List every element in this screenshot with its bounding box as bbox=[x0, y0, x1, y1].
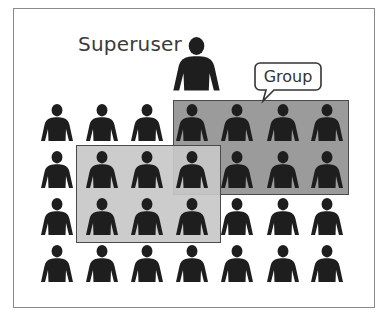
person-icon bbox=[176, 245, 208, 283]
person-icon bbox=[267, 245, 299, 283]
group-callout: Group bbox=[254, 62, 322, 91]
person-icon bbox=[86, 151, 118, 189]
person-icon bbox=[41, 104, 73, 142]
person-icon bbox=[41, 245, 73, 283]
person-icon bbox=[311, 198, 343, 236]
person-icon bbox=[311, 245, 343, 283]
person-icon bbox=[221, 245, 253, 283]
person-icon bbox=[131, 198, 163, 236]
person-icon bbox=[86, 245, 118, 283]
group-label: Group bbox=[254, 62, 322, 91]
person-icon bbox=[41, 198, 73, 236]
person-icon bbox=[267, 104, 299, 142]
person-icon bbox=[221, 151, 253, 189]
person-icon bbox=[311, 151, 343, 189]
person-icon bbox=[131, 245, 163, 283]
person-icon bbox=[176, 151, 208, 189]
person-icon bbox=[86, 198, 118, 236]
person-icon bbox=[131, 104, 163, 142]
person-icon bbox=[131, 151, 163, 189]
person-icon bbox=[41, 151, 73, 189]
person-icon bbox=[311, 104, 343, 142]
person-icon bbox=[176, 198, 208, 236]
person-icon bbox=[267, 151, 299, 189]
person-icon bbox=[221, 198, 253, 236]
superuser-person-icon bbox=[173, 37, 220, 92]
person-icon bbox=[267, 198, 299, 236]
person-icon bbox=[86, 104, 118, 142]
superuser-label: Superuser bbox=[78, 34, 182, 54]
person-icon bbox=[221, 104, 253, 142]
person-icon bbox=[176, 104, 208, 142]
